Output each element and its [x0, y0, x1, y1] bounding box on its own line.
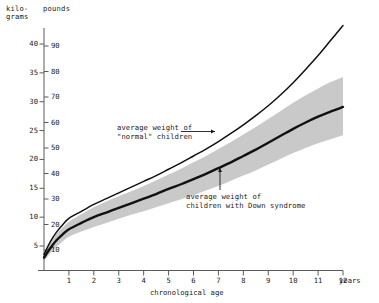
left-axis-tick-label: 5: [18, 242, 38, 250]
left-axis-tick-label: 25: [18, 127, 38, 135]
right-axis-tick-label: 90: [51, 42, 60, 50]
weight-growth-chart: kilo- grams pounds 510152025303540 10203…: [0, 0, 379, 303]
annotation-normal-children: average weight of "normal" children: [117, 123, 192, 142]
x-axis-tick-label: 6: [184, 277, 204, 285]
right-axis-tick-label: 40: [51, 170, 60, 178]
shaded-range-band: [44, 77, 343, 261]
left-axis-tick-label: 40: [18, 40, 38, 48]
right-axis-tick-label: 30: [51, 195, 60, 203]
right-axis-tick-label: 60: [51, 119, 60, 127]
x-axis-tick-label: 4: [134, 277, 154, 285]
right-axis-tick-label: 70: [51, 93, 60, 101]
x-axis-unit-label: years: [339, 276, 361, 285]
x-axis-tick-label: 2: [84, 277, 104, 285]
right-axis-tick-label: 20: [51, 221, 60, 229]
x-axis-tick-label: 9: [258, 277, 278, 285]
x-axis-tick-label: 11: [308, 277, 328, 285]
left-axis-tick-label: 20: [18, 155, 38, 163]
x-axis-tick-label: 1: [59, 277, 79, 285]
left-axis-tick-label: 35: [18, 69, 38, 77]
left-axis-tick-label: 10: [18, 213, 38, 221]
x-axis-tick-label: 10: [283, 277, 303, 285]
axis-lines: [38, 28, 343, 276]
right-axis-tick-label: 50: [51, 144, 60, 152]
annotation-down-syndrome: average weight of children with Down syn…: [186, 192, 306, 211]
right-axis-tick-label: 80: [51, 68, 60, 76]
left-axis-tick-label: 30: [18, 98, 38, 106]
x-axis-tick-label: 7: [208, 277, 228, 285]
x-axis-title: chronological age: [150, 288, 224, 297]
left-axis-tick-label: 15: [18, 184, 38, 192]
x-axis-tick-label: 8: [233, 277, 253, 285]
x-axis-tick-label: 5: [159, 277, 179, 285]
x-axis-tick-label: 3: [109, 277, 129, 285]
right-axis-tick-label: 10: [51, 246, 60, 254]
